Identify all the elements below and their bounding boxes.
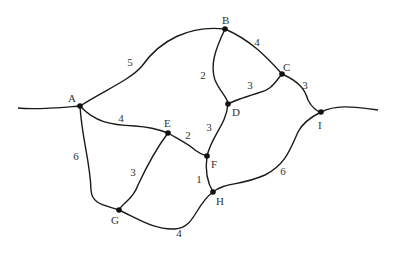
edge-weight-a-e: 4 (118, 112, 124, 124)
weighted-graph-diagram: 5464233323146 ABCDEFGHI (0, 0, 396, 253)
node-label-f: F (211, 158, 217, 170)
edge-weight-e-g: 3 (130, 166, 136, 178)
right-tail (321, 107, 378, 112)
node-g (116, 207, 122, 213)
node-label-e: E (164, 117, 171, 129)
node-label-h: H (216, 195, 224, 207)
edge-weight-d-f: 3 (206, 121, 212, 133)
node-d (225, 101, 231, 107)
node-e (165, 130, 171, 136)
node-b (222, 26, 228, 32)
edge-weight-e-f: 2 (185, 129, 191, 141)
node-label-b: B (222, 14, 229, 26)
node-i (318, 109, 324, 115)
node-a (77, 103, 83, 109)
tails (18, 106, 378, 112)
edge-a-g (80, 106, 119, 210)
edge-b-d (213, 29, 228, 104)
node-f (204, 153, 210, 159)
edge-weight-a-g: 6 (73, 150, 79, 162)
edge-weight-c-d: 3 (247, 79, 253, 91)
left-tail (18, 106, 80, 109)
edge-g-h (119, 192, 213, 229)
edge-h-i (213, 112, 321, 192)
node-label-g: G (111, 214, 119, 226)
node-label-i: I (318, 119, 322, 131)
edge-e-g (119, 133, 168, 210)
edge-weights: 5464233323146 (73, 36, 308, 239)
node-label-d: D (232, 106, 240, 118)
edge-weight-c-i: 3 (302, 79, 308, 91)
edge-weight-b-d: 2 (200, 69, 206, 81)
edge-weight-b-c: 4 (254, 36, 260, 48)
edge-weight-h-i: 6 (280, 165, 286, 177)
node-labels: ABCDEFGHI (68, 14, 322, 226)
edge-weight-f-h: 1 (196, 173, 202, 185)
edge-weight-g-h: 4 (176, 227, 182, 239)
node-label-a: A (68, 92, 76, 104)
edge-a-e (80, 106, 168, 133)
edge-a-b (80, 28, 225, 106)
edge-weight-a-b: 5 (127, 56, 133, 68)
edge-c-d (228, 74, 282, 104)
node-label-c: C (283, 61, 290, 73)
node-h (210, 189, 216, 195)
edges (80, 28, 321, 229)
